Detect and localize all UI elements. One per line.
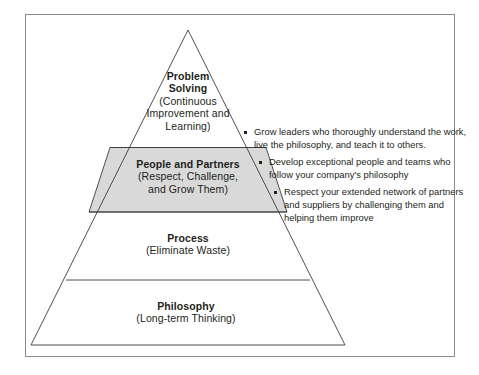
tier-subtitle-line: (Eliminate Waste) bbox=[96, 244, 280, 256]
annotation-bullet-item: Develop exceptional people and teams who… bbox=[258, 156, 470, 181]
tier-title-line: Problem bbox=[118, 70, 258, 82]
tier-title-line: Solving bbox=[118, 82, 258, 94]
tier-subtitle-line: (Continuous bbox=[118, 95, 258, 107]
annotation-bullet-item: Respect your extended network of partner… bbox=[273, 186, 470, 224]
annotation-bullet-item: Grow leaders who thoroughly understand t… bbox=[243, 126, 470, 151]
annotation-bullet-list: Grow leaders who thoroughly understand t… bbox=[243, 126, 471, 229]
pyramid-tier-label-philosophy: Philosophy (Long-term Thinking) bbox=[86, 300, 286, 325]
annotation-bullet-text: Respect your extended network of partner… bbox=[284, 186, 463, 222]
pyramid-tier-label-process: Process (Eliminate Waste) bbox=[96, 232, 280, 257]
tier-subtitle-line: Improvement and bbox=[118, 107, 258, 119]
tier-subtitle-line: (Long-term Thinking) bbox=[86, 312, 286, 324]
square-bullet-icon bbox=[244, 131, 247, 134]
annotation-bullet-text: Grow leaders who thoroughly understand t… bbox=[254, 126, 466, 150]
annotation-bullet-text: Develop exceptional people and teams who… bbox=[269, 156, 450, 180]
tier-subtitle-line: Learning) bbox=[118, 120, 258, 132]
tier-title-line: Process bbox=[96, 232, 280, 244]
tier-title-line: Philosophy bbox=[86, 300, 286, 312]
pyramid-tier-label-problem-solving: Problem Solving (Continuous Improvement … bbox=[118, 70, 258, 132]
square-bullet-icon bbox=[274, 191, 277, 194]
square-bullet-icon bbox=[259, 161, 262, 164]
